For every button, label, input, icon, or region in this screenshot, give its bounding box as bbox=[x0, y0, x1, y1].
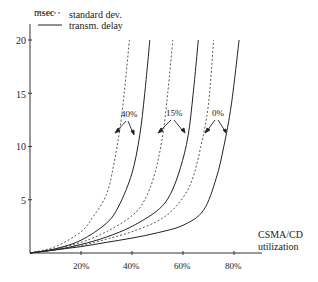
delay-curve bbox=[30, 40, 150, 253]
annotation-arrows bbox=[115, 120, 226, 135]
y-tick-label-10: 10 bbox=[16, 141, 26, 152]
x-tick-label-20: 20% bbox=[73, 261, 90, 272]
y-tick-label-15: 15 bbox=[16, 89, 26, 100]
annotation-15: 15% bbox=[166, 108, 183, 119]
x-tick-label-80: 80% bbox=[225, 261, 242, 272]
x-tick-label-60: 60% bbox=[174, 261, 191, 272]
annotation-40: 40% bbox=[121, 109, 138, 120]
delay-curve bbox=[30, 40, 198, 253]
std-dev-curve bbox=[30, 40, 173, 253]
y-tick-label-20: 20 bbox=[16, 35, 26, 46]
x-tick-label-40: 40% bbox=[123, 261, 140, 272]
legend-entry-dashed: standard dev. bbox=[69, 9, 122, 20]
legend-entry-solid: transm. delay bbox=[69, 20, 123, 31]
curves bbox=[30, 40, 239, 253]
x-axis-label-line2: utilization bbox=[258, 241, 299, 252]
annotation-0: 0% bbox=[212, 108, 224, 119]
x-axis-label-line1: CSMA/CD bbox=[258, 229, 303, 240]
y-tick-label-5: 5 bbox=[21, 195, 26, 206]
delay-curve bbox=[30, 40, 239, 253]
std-dev-curve bbox=[30, 40, 129, 253]
y-axis-label: msec bbox=[34, 7, 55, 18]
